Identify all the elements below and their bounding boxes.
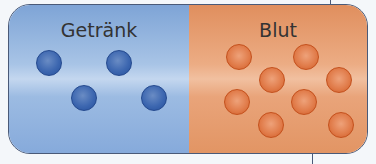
blood-particle [328,112,354,138]
diffusion-container: Getränk Blut [8,4,368,154]
drink-particle [141,85,167,111]
drink-particle [106,50,132,76]
blood-particle [224,89,250,115]
blood-label: Blut [189,19,367,41]
blood-particle [326,67,352,93]
blood-particle [291,89,317,115]
drink-label: Getränk [9,19,189,41]
connector-line-bottom [312,153,313,164]
blood-particle [293,44,319,70]
blood-particle [226,44,252,70]
blood-particle [259,67,285,93]
drink-compartment: Getränk [9,5,189,153]
drink-particle [36,50,62,76]
blood-particle [258,112,284,138]
blood-compartment: Blut [189,5,367,153]
drink-particle [71,85,97,111]
